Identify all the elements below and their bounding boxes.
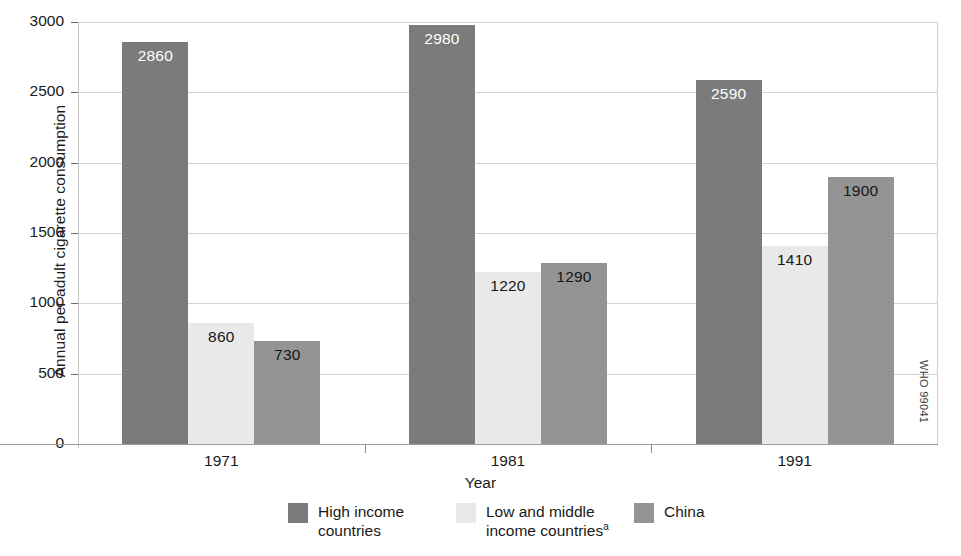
x-group-label: 1991 (715, 452, 875, 470)
y-tick-label: 0 (0, 434, 64, 452)
bar-value-label: 1290 (541, 268, 607, 286)
y-tick-label: 1500 (0, 223, 64, 241)
y-tick-label: 500 (0, 364, 64, 382)
x-group-label: 1981 (428, 452, 588, 470)
legend-item[interactable]: High incomecountries (288, 502, 456, 540)
bar[interactable]: 860 (188, 323, 254, 444)
y-tick-label: 2500 (0, 82, 64, 100)
legend-swatch (634, 503, 654, 523)
legend-swatch (456, 503, 476, 523)
x-tick-mark (651, 444, 652, 453)
bar[interactable]: 1220 (475, 272, 541, 444)
x-tick-mark (365, 444, 366, 453)
legend-label: Low and middleincome countriesa (486, 502, 609, 540)
legend-footnote-marker: a (603, 521, 609, 532)
bar[interactable]: 1290 (541, 263, 607, 444)
legend-label-line1: Low and middle (486, 502, 609, 521)
y-tick-label: 3000 (0, 12, 64, 30)
bar[interactable]: 730 (254, 341, 320, 444)
y-tick-mark (71, 22, 78, 23)
y-tick-label: 1000 (0, 293, 64, 311)
bar-value-label: 1220 (475, 277, 541, 295)
bar[interactable]: 2860 (122, 42, 188, 444)
legend-label-line1: High income (318, 502, 404, 521)
gridline (78, 233, 938, 234)
bar-value-label: 2860 (122, 47, 188, 65)
bar[interactable]: 2980 (409, 25, 475, 444)
legend: High incomecountriesLow and middleincome… (288, 502, 754, 540)
y-tick-mark (71, 303, 78, 304)
legend-label-line2: countries (318, 521, 404, 540)
plot-area: 2860860730298012201290259014101900 (78, 22, 938, 444)
gridline (78, 22, 938, 23)
bar[interactable]: 2590 (696, 80, 762, 444)
gridline (78, 163, 938, 164)
y-tick-mark (71, 163, 78, 164)
bar[interactable]: 1900 (828, 177, 894, 444)
bar-value-label: 1900 (828, 182, 894, 200)
legend-item[interactable]: China (634, 502, 754, 523)
bar-value-label: 730 (254, 346, 320, 364)
bar-value-label: 2590 (696, 85, 762, 103)
y-tick-mark (71, 374, 78, 375)
bar-value-label: 1410 (762, 251, 828, 269)
x-group-label: 1971 (141, 452, 301, 470)
legend-swatch (288, 503, 308, 523)
legend-label-line2: income countriesa (486, 521, 609, 540)
legend-label: High incomecountries (318, 502, 404, 540)
legend-item[interactable]: Low and middleincome countriesa (456, 502, 634, 540)
y-tick-mark (71, 92, 78, 93)
legend-label-line1: China (664, 502, 705, 521)
x-axis-line (0, 444, 938, 445)
y-tick-mark (71, 233, 78, 234)
chart-figure: Annual per adult cigarette consumption 0… (0, 0, 961, 556)
bar-value-label: 860 (188, 328, 254, 346)
bar-value-label: 2980 (409, 30, 475, 48)
who-credit-text: WHO 99041 (918, 360, 930, 423)
gridline (78, 92, 938, 93)
x-axis-title: Year (0, 474, 961, 492)
bar[interactable]: 1410 (762, 246, 828, 444)
y-tick-label: 2000 (0, 153, 64, 171)
legend-label: China (664, 502, 705, 521)
